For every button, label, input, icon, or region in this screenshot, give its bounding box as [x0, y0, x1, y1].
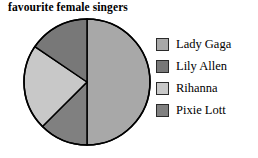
pie-slice[interactable]	[87, 19, 150, 145]
legend-item-label: Pixie Lott	[176, 104, 226, 117]
legend-item[interactable]: Rihanna	[156, 77, 256, 99]
legend-color-swatch	[156, 82, 169, 95]
legend-color-swatch	[156, 104, 169, 117]
pie-svg	[0, 0, 160, 158]
legend-item-label: Rihanna	[176, 82, 218, 95]
pie-chart-figure: favourite female singers Lady GagaLily A…	[0, 0, 258, 158]
legend-color-swatch	[156, 38, 169, 51]
pie-plot-area	[0, 0, 160, 158]
legend-item[interactable]: Lily Allen	[156, 55, 256, 77]
legend-item-label: Lily Allen	[176, 60, 227, 73]
legend-item-label: Lady Gaga	[176, 38, 231, 51]
legend-item[interactable]: Lady Gaga	[156, 33, 256, 55]
legend: Lady GagaLily AllenRihannaPixie Lott	[156, 33, 256, 121]
legend-item[interactable]: Pixie Lott	[156, 99, 256, 121]
legend-color-swatch	[156, 60, 169, 73]
